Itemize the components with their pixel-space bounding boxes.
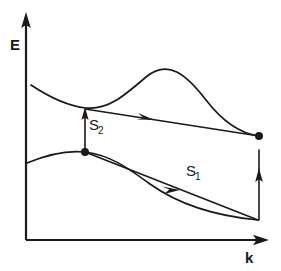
x-axis-label: k [245, 249, 254, 266]
upper-transition-arrow-icon [137, 113, 154, 120]
band-diagram-canvas: E k S 2 S 1 [0, 0, 281, 271]
band-curves-group [27, 69, 259, 220]
lower-transition-line [85, 152, 258, 220]
node-markers-group [81, 132, 263, 156]
lower-band-curve [27, 152, 258, 220]
transition-lines-group [81, 107, 262, 220]
upper-band-curve [31, 69, 259, 136]
upper-transition-line [85, 109, 259, 136]
y-axis-label: E [10, 36, 20, 53]
left-node-dot [81, 148, 89, 156]
s2-label-subscript: 2 [98, 125, 104, 136]
right-node-dot [255, 132, 263, 140]
band-diagram-figure: E k S 2 S 1 [0, 0, 281, 271]
labels-group: E k S 2 S 1 [10, 36, 254, 266]
s1-label-subscript: 1 [195, 171, 201, 182]
